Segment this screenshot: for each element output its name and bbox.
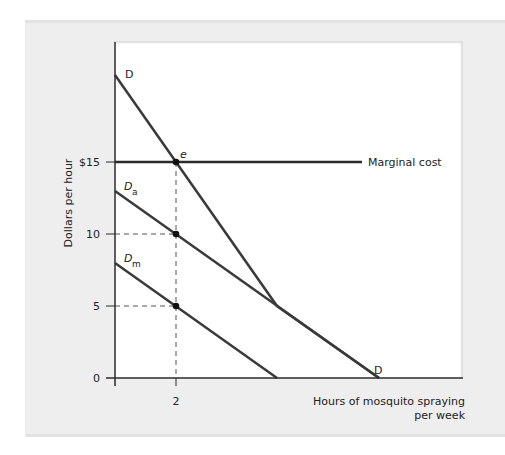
label-marginal-cost: Marginal cost [368, 156, 442, 169]
y-ticks [106, 162, 115, 306]
demand-d-line [115, 75, 379, 378]
y-tick-15: $15 [79, 156, 100, 169]
y-tick-0: 0 [93, 372, 100, 385]
x-tick-2: 2 [173, 395, 180, 408]
demand-da-line [115, 191, 379, 378]
x-axis-title-line2: per week [414, 409, 465, 422]
point-da-2 [173, 231, 180, 238]
point-dm-2 [173, 303, 180, 310]
y-tick-10: 10 [86, 228, 100, 241]
label-d-top: D [125, 68, 133, 81]
label-dm-sub: m [132, 259, 141, 269]
y-axis-title: Dollars per hour [62, 158, 75, 247]
y-tick-5: 5 [93, 300, 100, 313]
label-d-bottom: D [374, 364, 382, 377]
point-e [173, 159, 180, 166]
label-e: e [180, 148, 187, 161]
demand-dm-line [115, 263, 277, 378]
x-axis-title-line1: Hours of mosquito spraying [313, 395, 465, 408]
label-da-sub: a [132, 187, 138, 197]
